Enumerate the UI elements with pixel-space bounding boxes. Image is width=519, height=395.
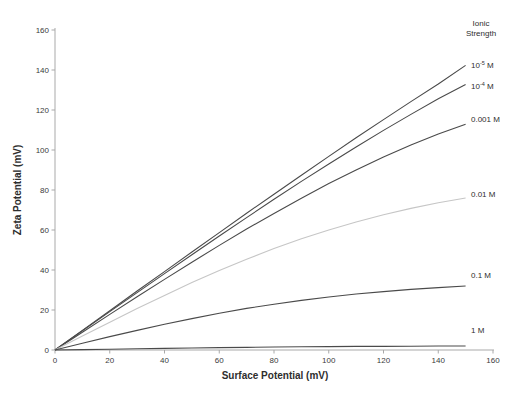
series-curve-1-m: [55, 346, 466, 350]
y-axis-title: Zeta Potential (mV): [12, 145, 23, 236]
y-tick-label: 80: [40, 186, 49, 195]
series-label: 0.1 M: [471, 271, 491, 280]
x-tick-label: 80: [270, 356, 279, 365]
legend-title: Ionic Strength: [452, 19, 510, 38]
series-label: 1 M: [471, 326, 485, 335]
zeta-potential-chart: 0204060801001201401600204060801001201401…: [0, 0, 519, 395]
y-tick-label: 0: [45, 346, 50, 355]
series-label: 0.01 M: [471, 190, 496, 199]
x-tick-label: 140: [432, 356, 446, 365]
x-tick-label: 100: [322, 356, 336, 365]
x-tick-label: 20: [105, 356, 114, 365]
series-label: 10-4 M: [471, 81, 494, 91]
y-tick-label: 160: [36, 26, 50, 35]
series-curve-0-001-m: [55, 124, 466, 350]
y-tick-label: 100: [36, 146, 50, 155]
series-curve-0-1-m: [55, 286, 466, 350]
series-label: 10-5 M: [471, 60, 494, 70]
x-axis-title: Surface Potential (mV): [55, 370, 495, 381]
x-tick-label: 40: [160, 356, 169, 365]
series-label: 0.001 M: [471, 115, 500, 124]
x-tick-label: 160: [486, 356, 500, 365]
y-tick-label: 140: [36, 66, 50, 75]
x-tick-label: 0: [53, 356, 58, 365]
chart-canvas: 0204060801001201401600204060801001201401…: [0, 0, 519, 395]
y-tick-label: 40: [40, 266, 49, 275]
y-tick-label: 60: [40, 226, 49, 235]
x-tick-label: 120: [377, 356, 391, 365]
x-tick-label: 60: [215, 356, 224, 365]
y-tick-label: 120: [36, 106, 50, 115]
y-tick-label: 20: [40, 306, 49, 315]
